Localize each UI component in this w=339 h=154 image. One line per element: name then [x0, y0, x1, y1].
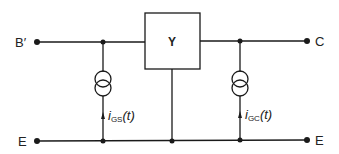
circuit-diagram: B′ E C E Y iGS(t) iGC(t) [0, 0, 339, 154]
label-b-prime: B′ [15, 35, 27, 50]
right-source-circle-upper [232, 71, 248, 87]
terminal-e-left-dot [34, 138, 40, 144]
terminal-b-prime-dot [34, 39, 40, 45]
label-e-left: E [18, 134, 27, 149]
left-source-circle-upper [95, 71, 111, 87]
junction-bottom-center [170, 139, 175, 144]
terminal-c-dot [304, 38, 310, 44]
terminal-e-right-dot [304, 137, 310, 143]
junction-bottom-left [101, 139, 106, 144]
right-current-arrow-icon [238, 111, 242, 118]
junction-bottom-right [238, 138, 243, 143]
left-current-arrow-icon [101, 112, 105, 119]
label-y-block: Y [168, 35, 176, 49]
right-source-circle-lower [232, 80, 248, 96]
junction-top-right [238, 39, 243, 44]
label-e-right: E [315, 133, 324, 148]
label-igc: iGC(t) [245, 107, 272, 123]
left-source-circle-lower [95, 80, 111, 96]
junction-top-left [101, 40, 106, 45]
label-c: C [315, 34, 324, 49]
label-igs: iGS(t) [108, 108, 135, 124]
